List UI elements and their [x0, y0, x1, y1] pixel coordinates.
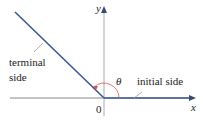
terminal-label-line2: side [9, 72, 27, 83]
terminal-leader [34, 43, 43, 52]
initial-side-label: initial side [137, 76, 183, 87]
terminal-label-line1: terminal [9, 57, 46, 68]
terminal-side-ray [15, 12, 104, 98]
x-axis-label: x [191, 102, 196, 113]
origin-label: 0 [96, 104, 102, 115]
initial-leader [134, 92, 142, 98]
y-axis-arrow-icon [101, 6, 107, 13]
theta-label: θ [116, 76, 121, 87]
y-axis-label: y [96, 3, 101, 14]
